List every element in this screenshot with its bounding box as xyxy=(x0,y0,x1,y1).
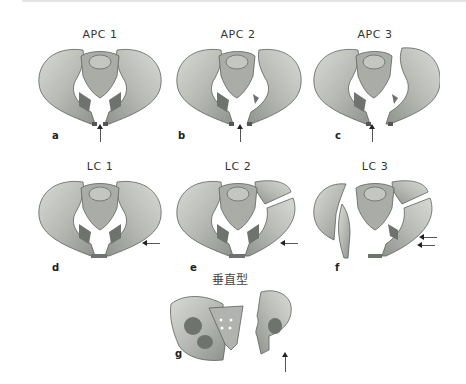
panel-vertical: 垂直型 g xyxy=(165,270,315,384)
arrow-up-icon xyxy=(100,128,101,142)
panel-title: APC 2 xyxy=(168,28,308,41)
panel-lc1: LC 1 d xyxy=(30,160,170,275)
panel-title: LC 1 xyxy=(30,160,170,173)
panel-lc2: LC 2 e xyxy=(168,160,308,275)
panel-label: b xyxy=(178,130,185,141)
top-rule xyxy=(22,0,466,2)
panel-label: a xyxy=(52,130,59,141)
arrow-up-icon xyxy=(240,128,241,142)
panel-lc3: LC 3 f xyxy=(305,160,445,275)
panel-apc2: APC 2 b xyxy=(168,28,308,143)
panel-apc1: APC 1 a xyxy=(30,28,170,143)
arrow-up-icon xyxy=(372,128,373,142)
arrow-left-icon xyxy=(421,245,435,246)
panel-title: APC 1 xyxy=(30,28,170,41)
arrow-left-icon xyxy=(423,237,437,238)
pelvis-illustration xyxy=(173,42,303,132)
pelvis-illustration xyxy=(310,174,440,264)
arrow-left-icon xyxy=(146,243,160,244)
pelvis-illustration xyxy=(310,42,440,132)
pelvis-illustration xyxy=(35,42,165,132)
panel-label: g xyxy=(175,348,182,359)
panel-label: c xyxy=(335,130,341,141)
pelvis-illustration xyxy=(35,174,165,264)
panel-title: LC 2 xyxy=(168,160,308,173)
arrow-up-icon xyxy=(285,356,286,372)
panel-title: 垂直型 xyxy=(212,270,248,287)
panel-label: f xyxy=(335,262,339,273)
panel-apc3: APC 3 c xyxy=(305,28,445,143)
panel-label: d xyxy=(52,262,59,273)
arrow-left-icon xyxy=(284,243,298,244)
panel-title: LC 3 xyxy=(305,160,445,173)
pelvis-illustration xyxy=(173,174,303,264)
panel-title: APC 3 xyxy=(305,28,445,41)
